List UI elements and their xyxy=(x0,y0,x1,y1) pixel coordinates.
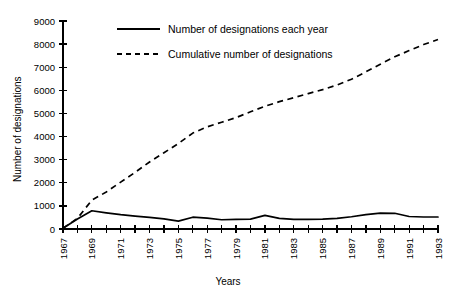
x-tick-label: 1981 xyxy=(259,238,270,259)
x-tick-label: 1993 xyxy=(433,238,444,259)
x-tick-label: 1967 xyxy=(58,238,69,259)
y-tick-label: 6000 xyxy=(34,85,55,96)
x-tick-label: 1971 xyxy=(115,238,126,259)
line-chart: 0100020003000400050006000700080009000 19… xyxy=(0,0,457,294)
x-tick-label: 1973 xyxy=(144,238,155,259)
x-tick-label: 1977 xyxy=(202,238,213,259)
y-tick-label: 3000 xyxy=(34,154,55,165)
x-axis-tick-labels: 1967196919711973197519771979198119831985… xyxy=(58,238,444,259)
x-tick-label: 1975 xyxy=(173,238,184,259)
y-axis-title: Number of designations xyxy=(12,76,23,182)
y-tick-label: 5000 xyxy=(34,108,55,119)
chart-container: 0100020003000400050006000700080009000 19… xyxy=(0,0,457,294)
x-tick-label: 1991 xyxy=(404,238,415,259)
x-tick-label: 1987 xyxy=(346,238,357,259)
y-tick-label: 4000 xyxy=(34,131,55,142)
y-tick-label: 2000 xyxy=(34,177,55,188)
x-tick-label: 1969 xyxy=(86,238,97,259)
x-tick-label: 1983 xyxy=(288,238,299,259)
y-tick-label: 1000 xyxy=(34,200,55,211)
y-axis-tick-labels: 0100020003000400050006000700080009000 xyxy=(34,16,55,235)
x-tick-label: 1979 xyxy=(231,238,242,259)
legend-label-cumulative: Cumulative number of designations xyxy=(168,48,333,60)
legend-label-annual: Number of designations each year xyxy=(168,23,328,35)
y-tick-label: 8000 xyxy=(34,39,55,50)
x-tick-label: 1985 xyxy=(317,238,328,259)
y-tick-label: 9000 xyxy=(34,16,55,27)
y-tick-label: 0 xyxy=(50,224,55,235)
x-tick-label: 1989 xyxy=(375,238,386,259)
series-cumulative-designations-line xyxy=(63,39,438,228)
chart-legend: Number of designations each year Cumulat… xyxy=(117,23,333,60)
y-tick-label: 7000 xyxy=(34,62,55,73)
x-axis-title: Years xyxy=(215,276,240,287)
